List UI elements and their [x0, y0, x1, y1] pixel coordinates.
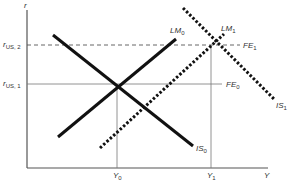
y-tick-rus1: rUS, 1	[3, 79, 21, 89]
x-tick-y0: Y0	[113, 171, 122, 181]
is1-label: IS1	[276, 101, 288, 111]
y-tick-rus2: rUS, 2	[3, 40, 21, 50]
is0-curve	[53, 35, 193, 146]
x-axis-label: Y	[264, 171, 270, 180]
lm0-label: LM0	[170, 26, 185, 36]
is0-label: IS0	[196, 144, 208, 154]
lm1-label: LM1	[221, 24, 236, 34]
is-lm-fe-diagram: r Y rUS, 2 rUS, 1 Y0 Y1 FE1 FE0 IS0 LM0 …	[0, 0, 289, 186]
fe1-label: FE1	[243, 41, 257, 51]
x-tick-y1: Y1	[207, 171, 216, 181]
fe0-label: FE0	[226, 80, 240, 90]
y-axis-label: r	[24, 1, 27, 10]
